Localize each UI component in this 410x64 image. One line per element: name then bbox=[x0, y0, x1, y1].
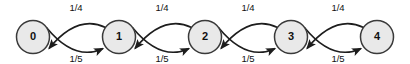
state-node-4[interactable]: 4 bbox=[361, 21, 394, 54]
edge-label-0-to-1: 1/4 bbox=[69, 2, 82, 13]
edge-label-1-to-0: 1/5 bbox=[69, 53, 82, 64]
edge-0-to-1 bbox=[46, 27, 103, 52]
edge-2-to-3 bbox=[218, 27, 275, 52]
edge-label-2-to-3: 1/4 bbox=[241, 2, 254, 13]
state-node-1[interactable]: 1 bbox=[103, 21, 136, 54]
state-transition-diagram: 01234 1/41/41/41/41/51/51/51/5 bbox=[0, 0, 410, 64]
edge-1-to-0 bbox=[49, 24, 106, 49]
state-node-label-2: 2 bbox=[202, 30, 208, 42]
edge-3-to-4 bbox=[304, 27, 361, 52]
edge-4-to-3 bbox=[307, 24, 364, 49]
edge-3-to-2 bbox=[221, 24, 278, 49]
edge-label-2-to-1: 1/5 bbox=[155, 53, 168, 64]
state-node-0[interactable]: 0 bbox=[17, 21, 50, 54]
edge-2-to-1 bbox=[135, 24, 192, 49]
chain-canvas: 01234 1/41/41/41/41/51/51/51/5 bbox=[0, 0, 410, 64]
edge-label-3-to-4: 1/4 bbox=[331, 2, 344, 13]
state-node-3[interactable]: 3 bbox=[275, 21, 308, 54]
edge-label-4-to-3: 1/5 bbox=[331, 53, 344, 64]
edge-1-to-2 bbox=[132, 27, 189, 52]
edge-label-1-to-2: 1/4 bbox=[155, 2, 168, 13]
state-node-2[interactable]: 2 bbox=[189, 21, 222, 54]
state-node-label-3: 3 bbox=[288, 30, 294, 42]
edge-label-3-to-2: 1/5 bbox=[241, 53, 254, 64]
state-node-label-1: 1 bbox=[116, 30, 122, 42]
state-node-label-0: 0 bbox=[30, 30, 36, 42]
state-node-label-4: 4 bbox=[374, 30, 381, 42]
